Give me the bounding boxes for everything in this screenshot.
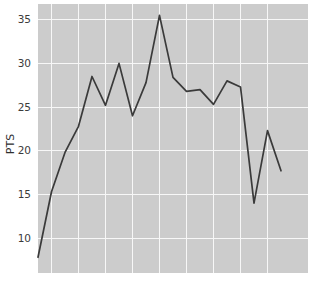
y-tick-label: 30 (18, 57, 31, 69)
y-tick-label: 10 (18, 232, 31, 244)
y-tick-label: 20 (18, 144, 31, 156)
y-tick-label: 15 (18, 188, 31, 200)
y-axis-tick-labels: 101520253035 (18, 13, 31, 243)
chart-figure: 101520253035 PTS (0, 0, 313, 282)
y-axis-title: PTS (4, 134, 17, 154)
y-tick-label: 35 (18, 13, 31, 25)
line-chart: 101520253035 PTS (0, 0, 313, 282)
y-tick-label: 25 (18, 101, 31, 113)
